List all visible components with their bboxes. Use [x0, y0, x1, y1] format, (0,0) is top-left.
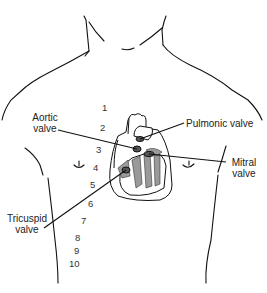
right-torso-side	[206, 175, 218, 283]
neck-right-outline	[162, 16, 166, 45]
right-shoulder	[163, 45, 262, 120]
aortic-label-line2: valve	[24, 123, 66, 134]
rib-number-4: 4	[93, 163, 98, 173]
mitral-valve-label: Mitral valve	[224, 157, 264, 179]
tricuspid-label-line1: Tricuspid	[2, 213, 52, 224]
left-chest-fold	[25, 148, 43, 175]
tricuspid-valve-label: Tricuspid valve	[2, 213, 52, 235]
tricuspid-label-line2: valve	[2, 224, 52, 235]
pulmonic-valve-label: Pulmonic valve	[186, 118, 253, 129]
rib-number-2: 2	[100, 123, 105, 133]
rib-number-8: 8	[75, 233, 80, 243]
neck-left-outline	[84, 16, 89, 56]
left-shoulder	[2, 51, 89, 120]
rib-number-9: 9	[74, 246, 79, 256]
rib-number-6: 6	[88, 199, 93, 209]
rib-number-7: 7	[81, 216, 86, 226]
mitral-label-line1: Mitral	[224, 157, 264, 168]
mitral-label-line2: valve	[224, 168, 264, 179]
heart	[110, 114, 172, 201]
neck-right-sternomastoid	[140, 28, 162, 45]
aortic-valve-label: Aortic valve	[24, 112, 66, 134]
chest-diagram	[0, 0, 267, 293]
rib-number-5: 5	[90, 180, 95, 190]
neck-left-sternomastoid	[89, 22, 104, 41]
rib-number-1: 1	[102, 103, 107, 113]
aortic-label-line1: Aortic	[24, 112, 66, 123]
jugular-notch	[122, 48, 134, 50]
rib-number-3: 3	[96, 145, 101, 155]
rib-number-10: 10	[69, 259, 80, 269]
